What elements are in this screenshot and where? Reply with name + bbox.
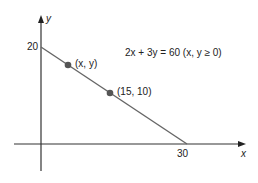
- x-axis-arrow-icon: [238, 141, 246, 147]
- y-axis-label: y: [46, 14, 51, 24]
- y-axis-arrow-icon: [38, 15, 44, 23]
- point-15-10: [107, 90, 114, 97]
- x-tick-label: 30: [177, 149, 188, 159]
- x-axis-label: x: [241, 149, 246, 159]
- equation-label: 2x + 3y = 60 (x, y ≥ 0): [125, 48, 222, 58]
- point-15-10-label: (15, 10): [117, 87, 151, 97]
- y-tick-label: 20: [27, 42, 38, 52]
- point-xy: [65, 62, 72, 69]
- constraint-line: [41, 47, 187, 144]
- point-xy-label: (x, y): [75, 59, 97, 69]
